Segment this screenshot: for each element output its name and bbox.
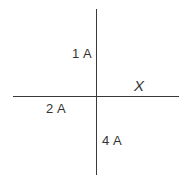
label-unknown-current: X xyxy=(134,78,145,93)
current-junction-diagram: 1 A X 2 A 4 A xyxy=(0,0,189,184)
label-left-current: 2 A xyxy=(46,102,66,115)
horizontal-wire xyxy=(13,96,179,97)
label-down-current: 4 A xyxy=(102,134,122,147)
label-up-current: 1 A xyxy=(72,47,92,60)
vertical-wire xyxy=(96,9,97,175)
